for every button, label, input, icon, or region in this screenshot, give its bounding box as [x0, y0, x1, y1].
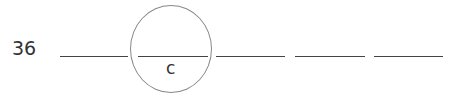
answer-blank-2[interactable]: [138, 56, 208, 57]
answer-blank-3[interactable]: [216, 56, 285, 57]
answer-blank-1[interactable]: [60, 56, 128, 57]
answer-blank-4[interactable]: [295, 56, 365, 57]
answer-blank-5[interactable]: [374, 56, 443, 57]
selected-answer: c: [166, 58, 175, 78]
selection-circle: [130, 5, 212, 93]
question-number: 36: [12, 37, 36, 59]
